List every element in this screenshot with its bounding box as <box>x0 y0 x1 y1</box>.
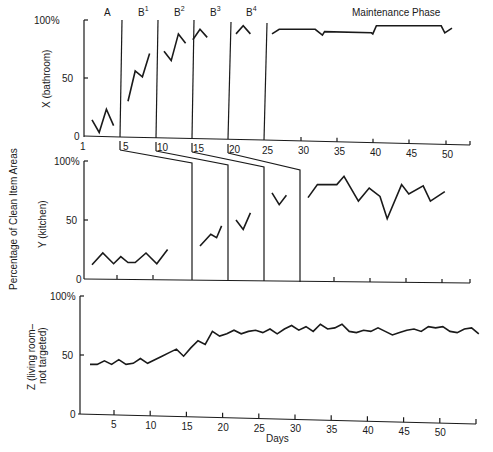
data-line-y-baseline <box>92 250 168 265</box>
shared-y-axis-title: Percentage of Clean Item Areas <box>8 148 19 290</box>
x-tick-label: 5 <box>123 141 129 152</box>
phase-label: B2 <box>174 5 185 18</box>
x-tick-label: 30 <box>298 145 310 156</box>
data-line-x-b1 <box>128 54 150 102</box>
y-tick-label: 100% <box>34 15 60 26</box>
x-tick-label: 50 <box>435 427 447 438</box>
x-axis-title: Days <box>266 433 289 444</box>
x-panel-y-title: X (bathroom) <box>41 50 52 108</box>
data-line-x-b2 <box>164 34 186 61</box>
x-tick-label: 10 <box>157 142 169 153</box>
x-tick-label: 15 <box>181 421 193 432</box>
y-panel-x-axis <box>84 279 470 283</box>
y-tick-label: 50 <box>66 215 78 226</box>
x-tick-label: 20 <box>229 144 241 155</box>
y-tick-label: 50 <box>62 350 74 361</box>
x-tick-label: 35 <box>334 146 346 157</box>
phase-change-line <box>228 22 231 139</box>
data-lines-layer <box>90 26 479 365</box>
data-line-y-b2 <box>236 213 250 230</box>
y-tick-label: 0 <box>74 131 80 142</box>
x-tick-label: 5 <box>111 419 117 430</box>
x-tick-label: 40 <box>370 147 382 158</box>
x-tick-label: 20 <box>218 422 230 433</box>
phase-label: Maintenance Phase <box>352 7 441 18</box>
phase-change-line <box>264 23 267 140</box>
data-line-x-b4 <box>236 26 250 34</box>
x-tick-label: 25 <box>262 145 274 156</box>
x-tick-label: 1 <box>80 141 86 152</box>
phase-connector-line <box>120 150 192 280</box>
axes-layer <box>78 20 476 424</box>
labels-layer: 15101520253035404550100%500100%500510152… <box>8 5 454 444</box>
phase-label: B1 <box>138 5 149 18</box>
z-panel-y-title: not targeted) <box>37 327 48 384</box>
phase-change-line <box>120 20 122 137</box>
data-line-x-maintenance <box>272 26 452 35</box>
data-line-x-a <box>92 109 114 132</box>
data-line-y-b3 <box>272 193 286 205</box>
data-line-y-b1 <box>200 226 222 246</box>
y-tick-label: 50 <box>62 73 74 84</box>
data-line-y-maintenance <box>308 176 445 219</box>
x-tick-label: 50 <box>442 149 454 160</box>
y-tick-label: 100% <box>50 291 76 302</box>
x-tick-label: 35 <box>326 424 338 435</box>
x-tick-label: 30 <box>290 423 302 434</box>
x-tick-label: 10 <box>145 420 157 431</box>
z-panel-x-axis <box>78 414 476 424</box>
data-line-z-z <box>90 324 479 364</box>
x-tick-label: 15 <box>193 143 205 154</box>
y-tick-label: 0 <box>76 274 82 285</box>
x-panel-x-axis <box>84 136 120 137</box>
x-tick-label: 45 <box>399 426 411 437</box>
phase-label: B3 <box>210 5 221 18</box>
phase-change-line <box>156 20 158 138</box>
figure: 15101520253035404550100%500100%500510152… <box>0 0 493 452</box>
x-tick-label: 40 <box>362 425 374 436</box>
phase-label: B4 <box>246 5 257 18</box>
phase-label: A <box>104 7 111 18</box>
z-panel-y-title: Z (living room– <box>26 323 37 390</box>
y-panel-y-title: Y (kitchen) <box>37 200 48 248</box>
x-tick-label: 25 <box>254 423 266 434</box>
data-line-x-b3 <box>193 29 207 39</box>
y-tick-label: 100% <box>54 156 80 167</box>
y-tick-label: 0 <box>70 409 76 420</box>
x-tick-label: 45 <box>406 148 418 159</box>
